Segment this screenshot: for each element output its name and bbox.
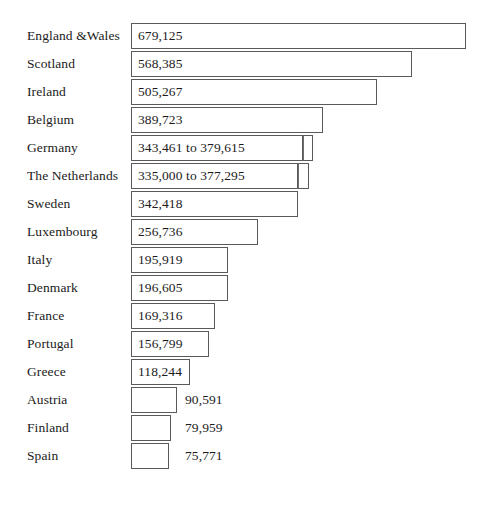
chart-row: Belgium389,723 [0, 106, 489, 134]
category-label: Italy [27, 246, 52, 274]
bar-range-extension [303, 135, 313, 161]
category-label: Germany [27, 134, 78, 162]
bar-chart: England &Wales679,125Scotland568,385Irel… [0, 0, 489, 505]
value-label: 195,919 [138, 246, 183, 274]
category-label: Sweden [27, 190, 70, 218]
chart-row: Denmark196,605 [0, 274, 489, 302]
bar [131, 443, 169, 469]
bar [131, 415, 171, 441]
chart-row: England &Wales679,125 [0, 22, 489, 50]
value-label: 505,267 [138, 78, 183, 106]
value-label: 342,418 [138, 190, 183, 218]
chart-row: Germany343,461 to 379,615 [0, 134, 489, 162]
bar [131, 387, 177, 413]
chart-row: Portugal156,799 [0, 330, 489, 358]
category-label: Spain [27, 442, 58, 470]
value-label: 118,244 [138, 358, 182, 386]
value-label: 256,736 [138, 218, 183, 246]
category-label: England &Wales [27, 22, 120, 50]
chart-row: Ireland505,267 [0, 78, 489, 106]
value-label: 343,461 to 379,615 [138, 134, 245, 162]
value-label: 156,799 [138, 330, 183, 358]
value-label: 568,385 [138, 50, 183, 78]
chart-row: Finland79,959 [0, 414, 489, 442]
bar-range-extension [298, 163, 309, 189]
chart-row: Scotland568,385 [0, 50, 489, 78]
value-label: 169,316 [138, 302, 183, 330]
chart-row: Greece118,244 [0, 358, 489, 386]
value-label: 79,959 [185, 414, 223, 442]
value-label: 90,591 [185, 386, 223, 414]
value-label: 679,125 [138, 22, 183, 50]
category-label: Finland [27, 414, 69, 442]
chart-row: Luxembourg256,736 [0, 218, 489, 246]
category-label: Scotland [27, 50, 75, 78]
chart-row: Austria90,591 [0, 386, 489, 414]
value-label: 75,771 [185, 442, 223, 470]
category-label: Portugal [27, 330, 74, 358]
category-label: Luxembourg [27, 218, 98, 246]
value-label: 196,605 [138, 274, 183, 302]
chart-row: Spain75,771 [0, 442, 489, 470]
chart-row: Sweden342,418 [0, 190, 489, 218]
category-label: Ireland [27, 78, 66, 106]
value-label: 335,000 to 377,295 [138, 162, 245, 190]
category-label: Belgium [27, 106, 74, 134]
category-label: France [27, 302, 64, 330]
category-label: The Netherlands [27, 162, 118, 190]
value-label: 389,723 [138, 106, 183, 134]
category-label: Greece [27, 358, 66, 386]
chart-row: The Netherlands335,000 to 377,295 [0, 162, 489, 190]
category-label: Austria [27, 386, 67, 414]
category-label: Denmark [27, 274, 78, 302]
chart-row: France169,316 [0, 302, 489, 330]
chart-row: Italy195,919 [0, 246, 489, 274]
